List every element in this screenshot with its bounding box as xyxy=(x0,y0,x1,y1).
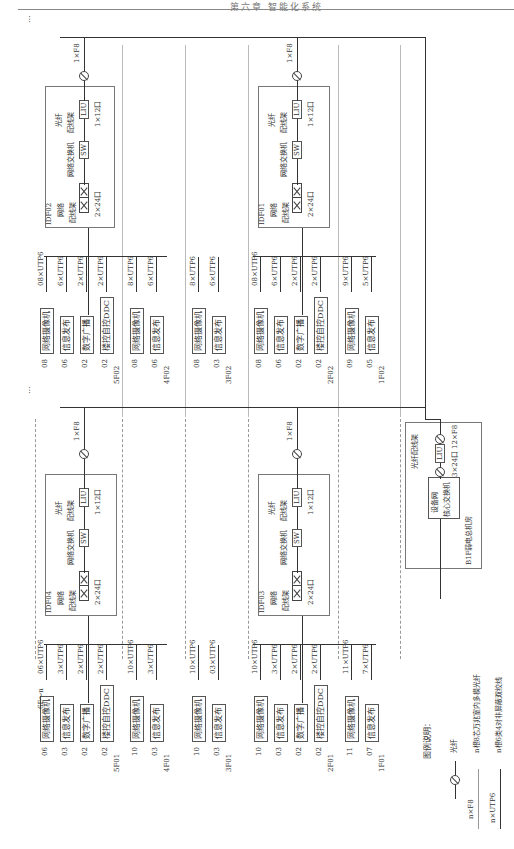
idf-patch-ports: 2×24口 xyxy=(95,579,102,605)
idf-odf-label: 配线架 xyxy=(281,500,288,521)
device-cable-line xyxy=(320,645,321,680)
device-cable-line xyxy=(280,645,281,680)
floor-divider-dashed xyxy=(35,419,36,659)
device-cable-line xyxy=(136,645,137,680)
idf01-uplink-line xyxy=(297,38,298,101)
device-cable-line xyxy=(371,257,372,292)
core-to-trunk-line xyxy=(425,419,441,420)
idf-patch-label: 网络 xyxy=(271,203,278,217)
device-qty: 02 xyxy=(316,747,323,756)
device-qty: 02 xyxy=(82,359,89,368)
device-cable-label: 10×UTP6 xyxy=(190,639,197,674)
device-cable-line xyxy=(136,257,137,292)
floor-divider xyxy=(122,45,123,417)
device-box: 网络摄像机 xyxy=(40,308,54,354)
device-cable-line xyxy=(46,257,47,292)
device-box: 信息发布 xyxy=(274,316,288,354)
idf02-label: IDF02 xyxy=(46,203,53,225)
idf03-label: IDF03 xyxy=(259,591,266,613)
device-cable-line xyxy=(280,257,281,292)
idf-odf-label: 光纤 xyxy=(56,113,63,127)
device-qty: 10 xyxy=(132,747,139,756)
idf-internal-link xyxy=(297,507,298,529)
device-cable-label: 6×UTP6 xyxy=(272,256,279,286)
device-qty: 08 xyxy=(42,359,49,368)
device-box: 楼控自控DDC xyxy=(100,297,114,354)
fiber-icon xyxy=(292,71,302,81)
idf-patch-label: 网络 xyxy=(58,591,65,605)
device-box: 楼控自控DDC xyxy=(314,297,328,354)
device-cable-label: 6×UTP6 xyxy=(58,256,65,286)
legend-utp6-code: n×UTP6 xyxy=(490,793,497,823)
idf-switch-sw: SW xyxy=(79,141,89,159)
device-qty: 08 xyxy=(256,359,263,368)
device-cable-label: 06×UTP6 xyxy=(38,639,45,674)
device-qty: 03 xyxy=(152,747,159,756)
legend-utp6-line xyxy=(500,769,501,829)
west-riser-line xyxy=(60,407,426,408)
device-cable-line xyxy=(86,645,87,680)
device-qty: 09 xyxy=(347,359,354,368)
floor-divider-dashed xyxy=(400,419,401,659)
idf-switch-sw: SW xyxy=(292,529,302,547)
idf-odf-label: 光纤 xyxy=(269,501,276,515)
device-cable-line xyxy=(300,257,301,292)
floor-label: 3F01 xyxy=(226,754,233,772)
floor-divider xyxy=(400,45,401,417)
device-cable-line xyxy=(86,257,87,292)
idf-switch-label: 网络交换机 xyxy=(68,142,75,177)
device-box: 信息发布 xyxy=(212,704,226,742)
idf-patch-label: 配线架 xyxy=(283,202,290,223)
device-box: 网络摄像机 xyxy=(345,696,359,742)
fiber-icon xyxy=(79,449,89,459)
device-cable-label: 8×UTP6 xyxy=(128,256,135,286)
fiber-icon xyxy=(292,449,302,459)
idf-liu-ports: 1×12口 xyxy=(308,101,315,127)
floor-label: 2F01 xyxy=(328,754,335,772)
idf-switch-label: 网络交换机 xyxy=(281,530,288,565)
idf-switch-label: 网络交换机 xyxy=(68,530,75,565)
device-box: 信息发布 xyxy=(60,704,74,742)
device-qty: 02 xyxy=(296,359,303,368)
device-box: 楼控自控DDC xyxy=(314,685,328,742)
device-qty: 10 xyxy=(256,747,263,756)
idf-liu: LIU xyxy=(79,100,89,119)
device-cable-line xyxy=(260,645,261,680)
top-floor-label: 6F～n xyxy=(38,688,45,709)
device-qty: 02 xyxy=(316,359,323,368)
idf-odf-label: 配线架 xyxy=(68,500,75,521)
legend-f8-line xyxy=(478,769,479,829)
device-cable-label: 2×UTP6 xyxy=(98,644,105,674)
idf-internal-link xyxy=(84,119,85,141)
device-cable-label: 10×UTP6 xyxy=(128,639,135,674)
idf-odf-label: 配线架 xyxy=(68,112,75,133)
device-cable-label: 2×UTP6 xyxy=(312,644,319,674)
device-qty: 02 xyxy=(296,747,303,756)
floor-label: 5F02 xyxy=(114,366,121,384)
device-cable-line xyxy=(320,257,321,292)
core-uplink-label: 12×F8 xyxy=(452,425,459,449)
idf01-uplink-label: 1×F8 xyxy=(287,43,294,63)
core-odf-ports: 3×24口 xyxy=(452,451,459,477)
device-qty: 08 xyxy=(132,359,139,368)
device-cable-label: 2×UTP6 xyxy=(98,256,105,286)
idf-patch-label: 网络 xyxy=(271,591,278,605)
device-qty: 08 xyxy=(194,359,201,368)
device-cable-label: 6×UTP6 xyxy=(210,256,217,286)
device-cable-line xyxy=(351,645,352,680)
device-cable-line xyxy=(218,257,219,292)
idf-liu-ports: 1×12口 xyxy=(95,101,102,127)
device-cable-line xyxy=(66,257,67,292)
device-box: 楼控自控DDC xyxy=(100,685,114,742)
idf04-drop-line xyxy=(88,616,89,703)
device-cable-label: 3×UTP6 xyxy=(272,644,279,674)
core-switch-label-1: 设备网 xyxy=(432,492,439,513)
device-cable-line xyxy=(46,645,47,680)
core-downlink-line xyxy=(440,519,441,599)
idf03-uplink-label: 1×F8 xyxy=(287,421,294,441)
device-cable-label: 08×UTP6 xyxy=(38,251,45,286)
floor-divider-dashed xyxy=(122,419,123,659)
device-cable-label: 2×UTP6 xyxy=(292,644,299,674)
floor-label: 2F02 xyxy=(328,366,335,384)
fiber-icon xyxy=(435,434,445,444)
